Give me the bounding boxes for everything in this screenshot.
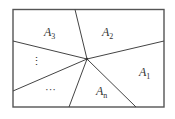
- region-label-a3: A3: [44, 26, 55, 41]
- center-point: [86, 58, 89, 61]
- horizontal-ellipsis: ···: [45, 84, 56, 95]
- region-label-a2: A2: [102, 26, 113, 41]
- vertical-ellipsis: ⋮: [31, 56, 42, 67]
- region-label-a1: A1: [139, 66, 150, 81]
- partition-diagram: [0, 0, 175, 119]
- region-label-an: An: [96, 85, 107, 100]
